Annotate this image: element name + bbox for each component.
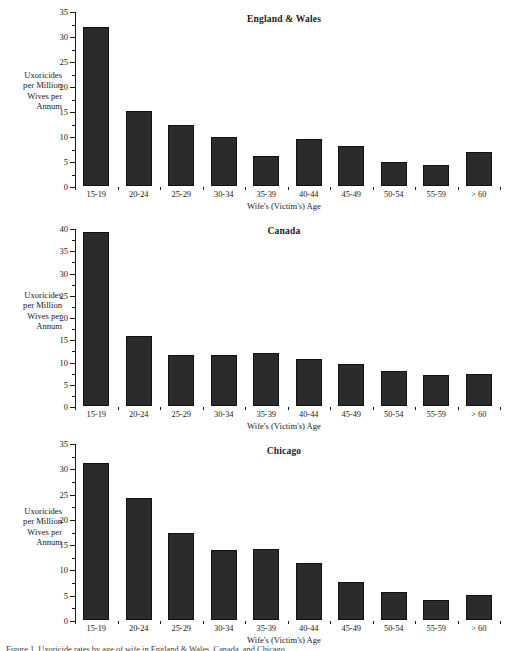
y-tick-label: 0 [64, 182, 68, 192]
y-tick-minor [72, 457, 75, 458]
bar [211, 550, 237, 620]
bar [126, 498, 152, 619]
y-tick-label: 25 [59, 57, 68, 67]
y-tick-label: 5 [64, 591, 68, 601]
x-tick [373, 187, 374, 190]
x-tick [373, 407, 374, 410]
bar-series [75, 229, 500, 406]
y-tick-major [70, 385, 75, 386]
y-tick-label: 10 [59, 132, 68, 142]
x-tick [75, 621, 76, 624]
y-axis-label-line: per Million [0, 80, 62, 90]
x-tick [75, 187, 76, 190]
y-tick-major [70, 12, 75, 13]
x-tick-label: 40-44 [299, 624, 319, 633]
x-tick [245, 407, 246, 410]
x-tick [415, 187, 416, 190]
y-axis-label: Uxoricidesper MillionWives perAnnum [0, 290, 62, 332]
x-tick [203, 187, 204, 190]
y-tick-major [70, 495, 75, 496]
y-tick-major [70, 37, 75, 38]
x-tick [203, 621, 204, 624]
bar [466, 374, 492, 406]
bar [466, 152, 492, 186]
bar [168, 533, 194, 620]
bar-series [75, 444, 500, 620]
x-tick-label: > 60 [471, 410, 486, 419]
x-tick-label: 50-54 [384, 624, 404, 633]
bar [381, 162, 407, 186]
x-tick [330, 187, 331, 190]
x-tick-label: > 60 [471, 624, 486, 633]
bar [296, 359, 322, 406]
x-tick [245, 621, 246, 624]
y-axis-label-line: Annum [0, 537, 62, 547]
y-tick-label: 10 [59, 565, 68, 575]
x-tick [415, 621, 416, 624]
y-tick-minor [72, 125, 75, 126]
x-tick [160, 407, 161, 410]
x-tick [75, 407, 76, 410]
x-tick-label: 15-19 [86, 410, 106, 419]
x-tick-label: 25-29 [171, 410, 191, 419]
y-tick-major [70, 137, 75, 138]
x-tick-label: 50-54 [384, 190, 404, 199]
x-tick [373, 621, 374, 624]
y-tick-major [70, 340, 75, 341]
x-tick-label: 45-49 [341, 410, 361, 419]
x-axis-title: Wife's (Victim's) Age [0, 635, 512, 645]
y-tick-major [70, 274, 75, 275]
x-tick-label: 30-34 [214, 190, 234, 199]
x-tick [458, 187, 459, 190]
x-tick [330, 407, 331, 410]
y-tick-major [70, 229, 75, 230]
x-tick [245, 187, 246, 190]
y-tick-label: 15 [59, 107, 68, 117]
y-tick-minor [72, 507, 75, 508]
x-tick-label: 30-34 [214, 410, 234, 419]
x-tick [288, 621, 289, 624]
bar [168, 125, 194, 186]
bar [211, 355, 237, 406]
bar [423, 165, 449, 186]
bar [338, 364, 364, 406]
y-tick-minor [72, 558, 75, 559]
y-tick-label: 0 [64, 402, 68, 412]
x-tick [203, 407, 204, 410]
bar [381, 592, 407, 620]
bar [423, 600, 449, 620]
y-tick-major [70, 545, 75, 546]
y-tick-label: 30 [59, 464, 68, 474]
x-tick-label: 55-59 [426, 410, 446, 419]
x-tick [118, 621, 119, 624]
y-tick-major [70, 444, 75, 445]
y-axis-label: Uxoricidesper MillionWives perAnnum [0, 70, 62, 112]
y-tick-major [70, 296, 75, 297]
x-tick [458, 621, 459, 624]
y-axis-label-line: Wives per [0, 91, 62, 101]
y-tick-major [70, 112, 75, 113]
y-tick-major [70, 570, 75, 571]
x-tick-label: 20-24 [129, 410, 149, 419]
x-axis-title: Wife's (Victim's) Age [0, 421, 512, 431]
x-tick-label: 45-49 [341, 190, 361, 199]
x-tick-label: 40-44 [299, 410, 319, 419]
y-axis-label-line: Uxoricides [0, 290, 62, 300]
y-axis-label-line: Uxoricides [0, 506, 62, 516]
x-axis-title: Wife's (Victim's) Age [0, 201, 512, 211]
figure-caption: Figure 1. Uxoricide rates by age of wife… [0, 645, 512, 651]
y-tick-label: 30 [59, 269, 68, 279]
bar [211, 137, 237, 186]
y-axis-label-line: Annum [0, 321, 62, 331]
y-tick-label: 35 [59, 7, 68, 17]
chart-panel-chicago: Chicago Uxoricidesper MillionWives perAn… [0, 436, 512, 651]
y-tick-label: 15 [59, 540, 68, 550]
x-tick-label: 40-44 [299, 190, 319, 199]
plot-area: 05101520253035 [75, 444, 500, 621]
bar [338, 582, 364, 619]
y-tick-major [70, 251, 75, 252]
x-tick-label: 20-24 [129, 624, 149, 633]
x-tick [288, 407, 289, 410]
y-tick-minor [72, 583, 75, 584]
y-tick-label: 40 [59, 224, 68, 234]
